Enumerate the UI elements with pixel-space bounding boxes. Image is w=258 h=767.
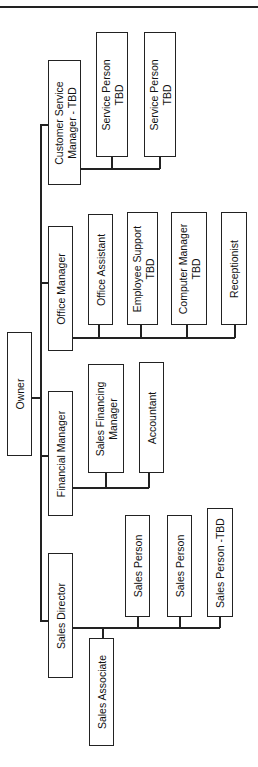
node-sales-financing-manager: Sales FinancingManager [88, 364, 124, 473]
node-sales-person-tbd: Sales Person -TBD [207, 508, 233, 617]
node-sales-director: Sales Director [48, 553, 73, 678]
node-csm-label: Customer ServiceManager - TBD [52, 81, 77, 164]
connector-sp1 [111, 157, 113, 169]
node-accountant-label: Accountant [145, 391, 158, 444]
node-sales-person-2: Sales Person [167, 515, 192, 617]
node-office-assistant-label: Office Assistant [94, 233, 107, 305]
connector-om-branch [72, 337, 235, 339]
connector-es [140, 324, 142, 338]
node-service-person-1: Service PersonTBD [96, 32, 128, 157]
node-employee-support: Employee SupportTBD [127, 212, 158, 325]
connector-sales-director [40, 620, 48, 622]
connector-acc [148, 472, 150, 488]
node-sfm-label: Sales FinancingManager [94, 381, 119, 456]
node-sales-person-1-label: Sales Person [131, 535, 144, 597]
node-sales-person-tbd-label: Sales Person -TBD [214, 518, 227, 608]
connector-owner [31, 397, 41, 399]
connector-sfm [105, 472, 107, 488]
node-customer-service-manager: Customer ServiceManager - TBD [48, 60, 81, 185]
connector-csm-branch [80, 168, 160, 170]
node-office-assistant: Office Assistant [88, 214, 113, 325]
node-computer-manager: Computer ManagerTBD [171, 212, 207, 325]
connector-sp-a [137, 616, 139, 628]
node-office-manager: Office Manager [48, 226, 73, 351]
node-accountant: Accountant [139, 362, 164, 473]
top-rule [0, 6, 258, 8]
node-owner: Owner [7, 332, 32, 456]
node-sp1-label: Service PersonTBD [100, 59, 125, 130]
connector-cm [186, 324, 188, 338]
connector-sp2 [159, 156, 161, 169]
node-sales-associate: Sales Associate [89, 638, 114, 746]
connector-sd-branch [72, 627, 220, 629]
node-sales-associate-label: Sales Associate [95, 655, 108, 729]
connector-oa [98, 324, 100, 338]
node-service-person-2: Service PersonTBD [144, 32, 176, 157]
node-sales-person-1: Sales Person [125, 515, 150, 617]
node-sp2-label: Service PersonTBD [148, 59, 173, 130]
node-sales-person-2-label: Sales Person [173, 535, 186, 597]
connector-rec [234, 324, 236, 338]
connector-sa [102, 627, 104, 638]
connector-sp-tbd [219, 616, 221, 628]
connector-office-manager [40, 282, 48, 284]
node-receptionist-label: Receptionist [228, 240, 241, 298]
node-financial-manager-label: Financial Manager [54, 410, 67, 496]
node-employee-support-label: Employee SupportTBD [130, 225, 155, 311]
connector-financial-manager [40, 455, 48, 457]
node-financial-manager: Financial Manager [48, 391, 73, 516]
connector-sp-b [179, 616, 181, 628]
node-sales-director-label: Sales Director [54, 583, 67, 649]
node-computer-manager-label: Computer ManagerTBD [177, 223, 202, 313]
connector-csm [40, 124, 48, 126]
node-owner-label: Owner [13, 379, 26, 410]
connector-spine [40, 124, 42, 621]
node-receptionist: Receptionist [221, 212, 247, 325]
connector-fm-branch [72, 487, 149, 489]
node-office-manager-label: Office Manager [54, 253, 67, 325]
